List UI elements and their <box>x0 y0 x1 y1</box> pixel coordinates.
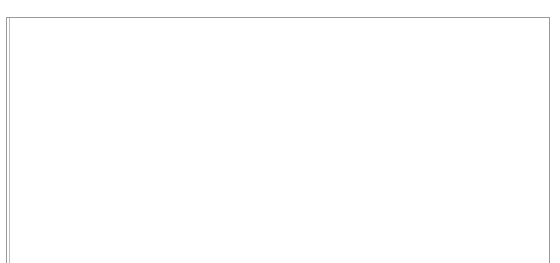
figure-frame <box>6 17 550 263</box>
frame-inner-line <box>9 18 10 263</box>
